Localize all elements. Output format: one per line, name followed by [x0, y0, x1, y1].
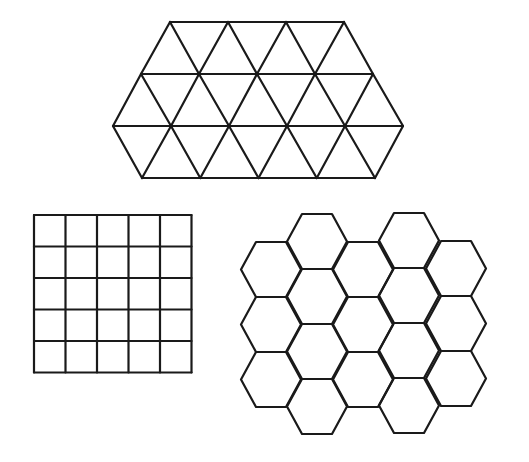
- edge: [113, 74, 141, 126]
- edge: [287, 126, 317, 178]
- edge: [375, 126, 403, 178]
- edge: [373, 74, 403, 126]
- edge: [259, 126, 288, 178]
- edge: [141, 74, 171, 126]
- edge: [141, 22, 170, 74]
- edge: [171, 74, 199, 126]
- edge: [345, 126, 375, 178]
- edge: [257, 74, 287, 126]
- edge: [257, 22, 286, 74]
- tiling-diagram: [0, 0, 529, 462]
- hexagon-tiling: [241, 213, 486, 434]
- triangle-tiling: [113, 22, 403, 178]
- edge: [200, 126, 229, 178]
- edge: [315, 22, 344, 74]
- square-tiling: [34, 215, 192, 373]
- edge: [287, 74, 315, 126]
- edge: [286, 22, 315, 74]
- edge: [142, 126, 171, 178]
- edge: [317, 126, 345, 178]
- edge: [228, 22, 257, 74]
- edge: [170, 22, 199, 74]
- edge: [113, 126, 142, 178]
- edge: [199, 74, 229, 126]
- edge: [344, 22, 373, 74]
- edge: [199, 22, 228, 74]
- edge: [345, 74, 373, 126]
- diagram-description: Three regular tilings of the plane: [0, 0, 16, 1]
- edge: [229, 126, 259, 178]
- edge: [171, 126, 200, 178]
- edge: [229, 74, 257, 126]
- edge: [315, 74, 345, 126]
